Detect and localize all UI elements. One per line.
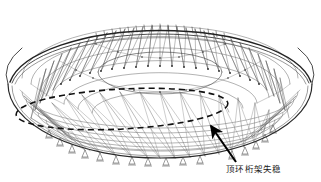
buckling-annotation-label: 顶环桁架失稳 [226,164,282,174]
support-symbol [241,147,249,155]
support-symbol [112,156,120,164]
dome-structure-svg [0,0,321,182]
dome-buckling-figure: 顶环桁架失稳 [0,0,321,182]
support-symbol [179,157,187,165]
support-symbol [81,150,89,158]
support-symbol [96,153,104,161]
top-rim-band [10,30,311,84]
diagonal-bracing-a [31,26,285,118]
support-symbol [196,156,204,164]
support-symbol [68,145,76,153]
support-symbol [128,157,136,165]
support-symbol [162,158,170,166]
support-symbol [144,158,152,166]
